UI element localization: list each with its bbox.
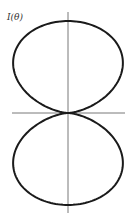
radiation-pattern-diagram [0, 0, 130, 215]
